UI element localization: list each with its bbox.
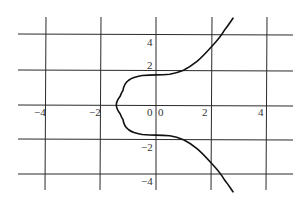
x-tick-label-0-right: 0: [158, 106, 164, 118]
elliptic-curve-chart: −4 −2 0 0 2 4 4 2 −2 −4: [0, 0, 307, 206]
y-tick-label-2: 2: [147, 59, 153, 71]
gridline-x-neg2: [100, 17, 101, 190]
x-tick-label-2: 2: [202, 106, 208, 118]
vertical-grid: [45, 17, 267, 190]
y-tick-label-4: 4: [147, 36, 153, 48]
x-tick-label-neg4: −4: [34, 106, 46, 118]
gridline-x-4: [266, 17, 267, 190]
x-tick-label-0-left: 0: [147, 106, 153, 118]
gridline-x-neg4: [45, 17, 46, 190]
y-tick-label-neg4: −4: [141, 175, 153, 187]
x-tick-label-neg2: −2: [89, 106, 101, 118]
y-tick-label-neg2: −2: [141, 141, 153, 153]
x-tick-label-4: 4: [258, 106, 264, 118]
